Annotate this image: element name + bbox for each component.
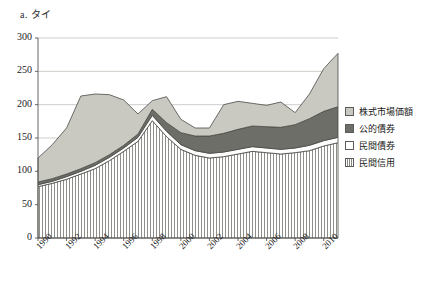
y-tick-label: 300 [2, 31, 32, 42]
y-tick-label: 250 [2, 64, 32, 75]
legend-swatch-icon [345, 124, 354, 133]
y-tick-label: 100 [2, 164, 32, 175]
chart-legend: 株式市場価額公的債券民間債券民間信用 [345, 103, 437, 171]
y-tick-label: 150 [2, 131, 32, 142]
legend-swatch-icon [345, 158, 354, 167]
area-series-group [38, 53, 338, 238]
legend-item: 株式市場価額 [345, 103, 437, 120]
y-tick-label: 0 [2, 231, 32, 242]
legend-swatch-icon [345, 107, 354, 116]
y-tick-label: 50 [2, 198, 32, 209]
legend-item: 民間債券 [345, 137, 437, 154]
legend-swatch-icon [345, 141, 354, 150]
legend-label: 株式市場価額 [359, 105, 413, 118]
chart-container: a. タイ 050100150200250300 199019921994199… [0, 0, 439, 290]
legend-item: 公的債券 [345, 120, 437, 137]
y-tick-label: 200 [2, 98, 32, 109]
legend-label: 公的債券 [359, 122, 395, 135]
legend-item: 民間信用 [345, 154, 437, 171]
legend-label: 民間債券 [359, 139, 395, 152]
legend-label: 民間信用 [359, 156, 395, 169]
